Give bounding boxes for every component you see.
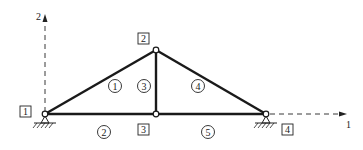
node-label-1: 1 [20,106,31,117]
svg-text:4: 4 [196,81,201,92]
svg-text:4: 4 [285,124,290,135]
svg-text:2: 2 [141,33,146,44]
element-label-1: 1 [109,80,122,93]
joint-2 [153,47,159,53]
joint-4 [263,111,269,117]
truss-diagram: 2 1 12345 1234 [0,0,363,150]
joint-1 [42,111,48,117]
joint-3 [153,111,159,117]
node-label-4: 4 [282,124,293,135]
pin-support-icon [254,116,277,128]
y-axis-label: 2 [36,11,41,22]
x-axis-label: 1 [346,119,351,130]
element-label-3: 3 [138,80,151,93]
x-axis-arrow-icon [339,112,347,117]
element-label-4: 4 [192,80,205,93]
svg-text:3: 3 [141,124,146,135]
element-label-2: 2 [98,126,111,139]
svg-text:2: 2 [102,127,107,138]
svg-text:5: 5 [206,127,211,138]
y-axis-arrow-icon [43,14,48,22]
svg-text:3: 3 [142,81,147,92]
truss-members [45,50,266,114]
pin-support-icon [33,116,56,128]
truss-member-4 [156,50,266,114]
node-label-3: 3 [138,124,149,135]
supports [33,116,277,128]
svg-text:1: 1 [113,81,118,92]
svg-text:1: 1 [23,106,28,117]
node-label-2: 2 [138,33,149,44]
element-label-5: 5 [202,126,215,139]
